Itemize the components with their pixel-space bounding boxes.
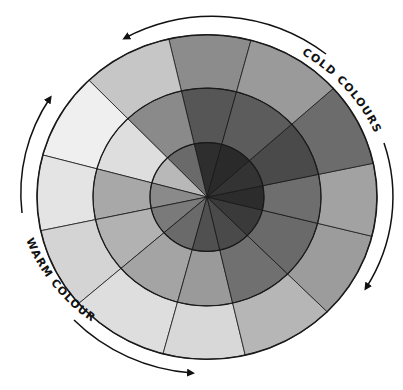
colour-wheel-diagram: COLD COLOURS WARM COLOURS (0, 0, 403, 390)
